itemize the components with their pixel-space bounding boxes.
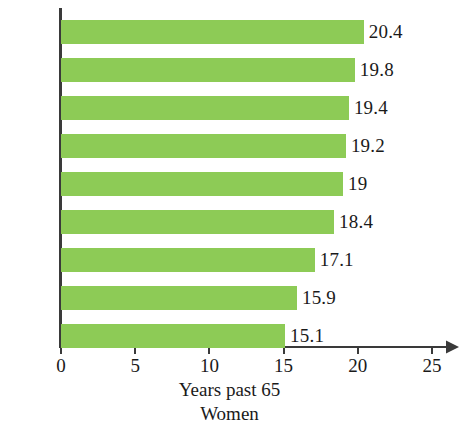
x-tick-label: 5 — [113, 355, 157, 377]
bar — [61, 286, 297, 310]
bar-chart: 203020.4202019.8201019.4200019.219901919… — [0, 0, 459, 434]
bar — [61, 58, 355, 82]
bar-value-label: 20.4 — [369, 20, 403, 44]
bar-value-label: 15.1 — [290, 324, 324, 348]
x-tick-label: 0 — [39, 355, 83, 377]
bar — [61, 248, 315, 272]
bar-value-label: 18.4 — [339, 210, 373, 234]
x-tick-label: 15 — [262, 355, 306, 377]
x-tick-label: 25 — [410, 355, 454, 377]
plot-area: 203020.4202019.8201019.4200019.219901919… — [0, 0, 459, 434]
bar — [61, 20, 364, 44]
bar-value-label: 19 — [348, 172, 367, 196]
x-axis-subcaption: Women — [0, 403, 459, 425]
x-axis-caption: Years past 65 — [0, 379, 459, 401]
bar — [61, 210, 334, 234]
bar-value-label: 19.2 — [351, 134, 385, 158]
bar — [61, 134, 346, 158]
bar — [61, 172, 343, 196]
x-tick-label: 10 — [187, 355, 231, 377]
bar-value-label: 19.4 — [354, 96, 388, 120]
bar-value-label: 19.8 — [360, 58, 394, 82]
bar — [61, 324, 285, 348]
bar-value-label: 17.1 — [320, 248, 354, 272]
bar — [61, 96, 349, 120]
x-tick-label: 20 — [336, 355, 380, 377]
bar-value-label: 15.9 — [302, 286, 336, 310]
